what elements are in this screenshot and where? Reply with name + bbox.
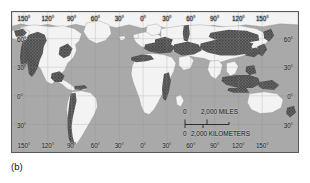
lat-label-right-30n: 30° bbox=[284, 64, 293, 71]
lat-label-left-30n: 30° bbox=[17, 64, 26, 71]
lon-label-bottom-60w: 60° bbox=[91, 142, 100, 149]
lon-label-top-0: 0° bbox=[140, 15, 146, 22]
lon-label-top-90e: 90° bbox=[210, 15, 219, 22]
lat-label-right-60n: 60° bbox=[284, 35, 293, 42]
lon-label-top-120e: 120° bbox=[232, 15, 245, 22]
figure-panel: 150° 120° 90° 60° 30° 0° 30° 60° 90° 120… bbox=[0, 0, 310, 183]
scale-miles-label: 2,000 MILES bbox=[201, 108, 238, 115]
lon-label-top-60w: 60° bbox=[91, 15, 100, 22]
lon-label-top-90w: 90° bbox=[67, 15, 76, 22]
lat-label-right-0: 0° bbox=[287, 93, 293, 100]
lon-label-top-30e: 30° bbox=[162, 15, 171, 22]
lon-label-top-150w: 150° bbox=[18, 15, 31, 22]
lon-label-top-120w: 120° bbox=[41, 15, 54, 22]
lat-label-left-60n: 60° bbox=[17, 35, 26, 42]
lon-label-top-30w: 30° bbox=[115, 15, 124, 22]
lon-label-bottom-150w: 150° bbox=[18, 142, 31, 149]
lon-label-bottom-0: 0° bbox=[140, 142, 146, 149]
scale-miles-zero-label: 0 bbox=[183, 108, 187, 115]
lon-label-bottom-90w: 90° bbox=[67, 142, 76, 149]
lat-label-left-30s: 30° bbox=[17, 121, 26, 128]
scale-ruler-graphic bbox=[184, 119, 230, 128]
lon-label-bottom-30w: 30° bbox=[115, 142, 124, 149]
lon-label-top-150e: 150° bbox=[256, 15, 269, 22]
lat-label-left-0: 0° bbox=[17, 93, 23, 100]
land-british-isles bbox=[133, 34, 139, 39]
lon-label-top-60e: 60° bbox=[186, 15, 195, 22]
world-map-frame: 150° 120° 90° 60° 30° 0° 30° 60° 90° 120… bbox=[11, 11, 299, 153]
scale-km-label: 2,000 KILOMETERS bbox=[191, 130, 250, 137]
map-scale-bar: 0 2,000 MILES 0 2,000 KILOMETERS bbox=[183, 108, 279, 146]
panel-caption: (b) bbox=[11, 161, 23, 172]
lon-label-bottom-30e: 30° bbox=[162, 142, 171, 149]
lat-label-right-30s: 30° bbox=[284, 121, 293, 128]
lon-label-bottom-120w: 120° bbox=[41, 142, 54, 149]
scale-km-zero-label: 0 bbox=[183, 130, 187, 137]
